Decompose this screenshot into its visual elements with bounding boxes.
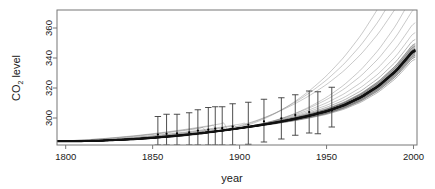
data-point [221, 127, 223, 129]
y-tick-label: 300 [43, 110, 54, 126]
data-point [197, 130, 199, 132]
data-point [176, 132, 178, 134]
y-tick-label-group: 340 [43, 50, 54, 66]
data-point [214, 128, 216, 130]
y-axis-title-group: CO2 level [10, 55, 24, 101]
data-point [263, 120, 265, 122]
data-point [165, 133, 167, 135]
co2-chart-figure: 18001850190019502000300320340360 year CO… [0, 0, 435, 189]
y-tick-label: 360 [43, 20, 54, 36]
x-tick-label: 1800 [55, 151, 76, 162]
y-tick-label: 340 [43, 50, 54, 66]
chart-canvas: 18001850190019502000300320340360 year CO… [0, 0, 435, 189]
data-point [294, 114, 296, 116]
data-point [207, 129, 209, 131]
x-tick-label: 1850 [142, 151, 163, 162]
data-point [247, 124, 249, 126]
y-axis-title-post: level [10, 55, 22, 81]
y-tick-label-group: 320 [43, 80, 54, 96]
data-point [308, 111, 310, 113]
y-axis-title-pre: CO [10, 84, 22, 101]
x-tick-label: 1900 [229, 151, 250, 162]
x-axis-title: year [221, 172, 243, 184]
y-tick-label-group: 300 [43, 110, 54, 126]
data-point [232, 126, 234, 128]
x-tick-label: 1950 [316, 151, 337, 162]
x-tick-label: 2000 [403, 151, 424, 162]
y-tick-label: 320 [43, 80, 54, 96]
y-axis-title: CO2 level [10, 55, 24, 101]
data-point [188, 131, 190, 133]
data-point [157, 133, 159, 135]
data-point [280, 117, 282, 119]
y-tick-label-group: 360 [43, 20, 54, 36]
